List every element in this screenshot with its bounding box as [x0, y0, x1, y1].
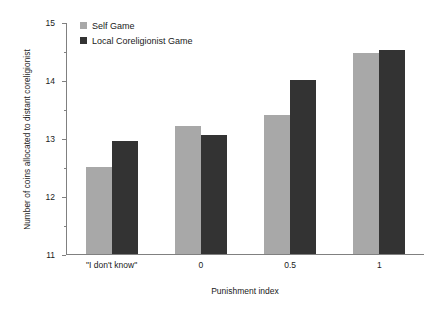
bar-group-0-5: 0.5: [246, 23, 335, 254]
y-tick-major-13: 13: [62, 139, 66, 140]
bar-local-0[interactable]: [201, 135, 227, 254]
bar-group-0: 0: [156, 23, 245, 254]
y-axis-title: Number of coins allocated to distant cor…: [23, 10, 32, 270]
y-tick-label-13: 13: [46, 134, 55, 144]
y-tick-major-14: 14: [62, 81, 66, 82]
legend: Self Game Local Coreligionist Game: [80, 18, 193, 48]
x-tick-label-idk: "I don't know": [86, 260, 137, 270]
bar-self-1[interactable]: [353, 53, 379, 254]
y-tick-major-11: 11: [62, 255, 66, 256]
x-tick-label-1: 1: [377, 260, 382, 270]
y-tick-label-11: 11: [46, 250, 55, 260]
y-tick-minor-12-5: [64, 168, 67, 169]
x-axis-line: [66, 254, 424, 255]
y-tick-minor-11-5: [64, 226, 67, 227]
y-tick-label-15: 15: [46, 18, 55, 28]
legend-label-self: Self Game: [92, 21, 135, 31]
y-tick-minor-13-5: [64, 110, 67, 111]
bar-group-1: 1: [335, 23, 424, 254]
y-tick-label-12: 12: [46, 192, 55, 202]
bar-local-0-5[interactable]: [290, 80, 316, 254]
y-tick-major-15: 15: [62, 23, 66, 24]
legend-label-local: Local Coreligionist Game: [92, 36, 193, 46]
legend-entry-self[interactable]: Self Game: [80, 18, 193, 33]
bar-local-1[interactable]: [379, 50, 405, 254]
legend-swatch-self-icon: [80, 22, 87, 29]
legend-entry-local[interactable]: Local Coreligionist Game: [80, 33, 193, 48]
bar-self-0[interactable]: [175, 126, 201, 254]
bar-self-idk[interactable]: [86, 167, 112, 254]
x-tick-label-0-5: 0.5: [284, 260, 296, 270]
x-tick-label-0: 0: [199, 260, 204, 270]
y-tick-minor-14-5: [64, 52, 67, 53]
bar-local-idk[interactable]: [112, 141, 138, 254]
y-tick-major-12: 12: [62, 197, 66, 198]
bar-groups: "I don't know" 0 0.5 1: [67, 23, 424, 254]
x-axis-title: Punishment index: [66, 286, 424, 296]
bar-self-0-5[interactable]: [264, 115, 290, 254]
y-tick-label-14: 14: [46, 76, 55, 86]
bar-chart-figure: Number of coins allocated to distant cor…: [0, 0, 436, 312]
plot-area: 11 12 13 14 15 "I don't know": [66, 23, 424, 255]
bar-group-idk: "I don't know": [67, 23, 156, 254]
legend-swatch-local-icon: [80, 37, 87, 44]
